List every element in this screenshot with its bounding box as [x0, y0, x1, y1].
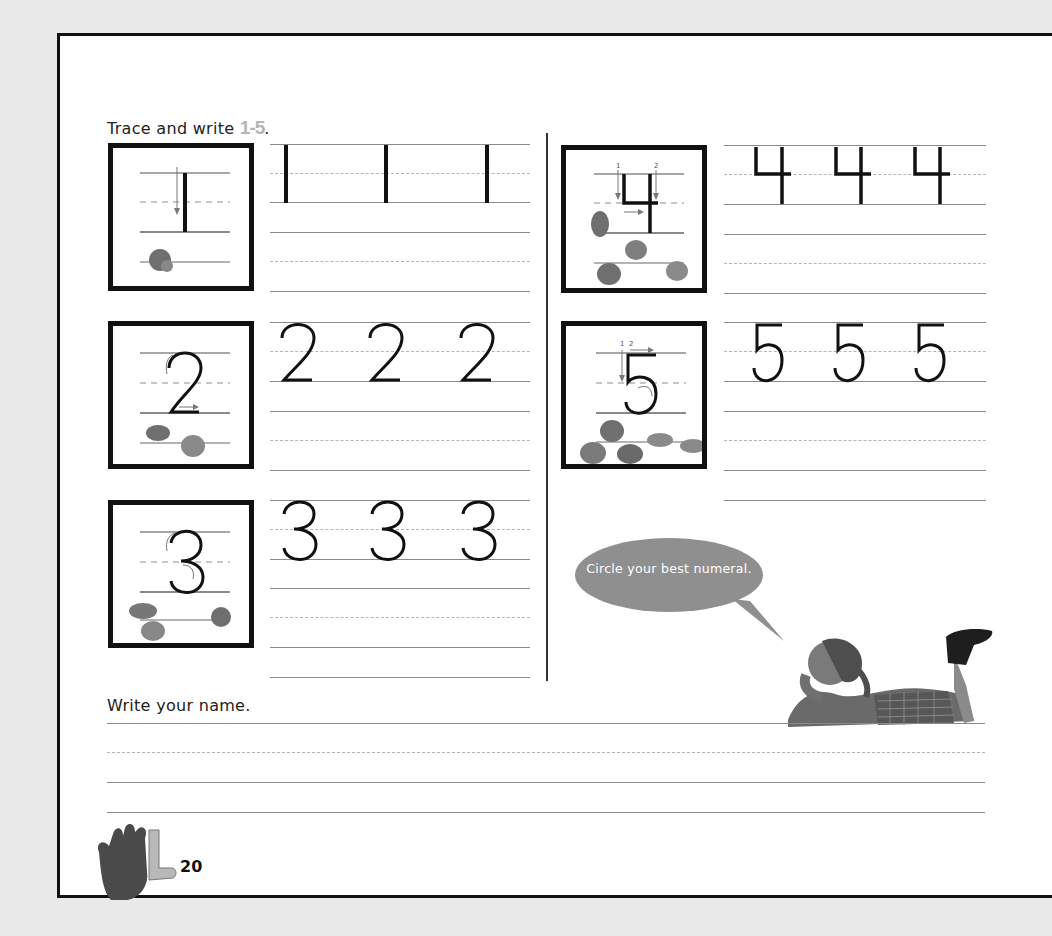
- svg-text:2: 2: [629, 340, 633, 348]
- model-numeral-4-icon: 1 2: [566, 150, 702, 288]
- practice-lines-2[interactable]: [270, 322, 530, 472]
- practice-glyphs-1: [270, 144, 530, 204]
- svg-text:2: 2: [654, 162, 658, 170]
- model-box-2: [108, 321, 254, 469]
- practice-glyphs-5: [724, 322, 986, 384]
- model-numeral-5-icon: 1 2: [566, 326, 702, 466]
- practice-lines-3[interactable]: [270, 500, 530, 680]
- svg-text:1: 1: [616, 162, 620, 170]
- model-numeral-1-icon: [113, 148, 249, 286]
- page-number: 20: [180, 857, 202, 876]
- pebble-counter-icon: [591, 211, 688, 285]
- name-writing-lines[interactable]: [107, 723, 985, 818]
- model-box-1: [108, 143, 254, 291]
- pebble-counter-icon: [146, 425, 205, 457]
- column-divider: [546, 133, 548, 681]
- model-numeral-2-icon: [113, 326, 249, 464]
- speech-bubble: Circle your best numeral.: [574, 537, 786, 637]
- practice-lines-4[interactable]: [724, 145, 986, 295]
- practice-lines-1[interactable]: [270, 144, 530, 294]
- name-prompt: Write your name.: [107, 696, 251, 715]
- practice-lines-5[interactable]: [724, 322, 986, 502]
- svg-text:1: 1: [620, 340, 624, 348]
- speech-bubble-shape-icon: [574, 537, 786, 647]
- instruction-text: Trace and write: [107, 119, 240, 138]
- hand-sign-L-icon: [93, 822, 178, 900]
- numeral-range: 1-5: [240, 117, 264, 138]
- practice-glyphs-4: [724, 145, 986, 207]
- girl-lying-illustration: [778, 625, 998, 735]
- model-box-4: 1 2: [561, 145, 707, 293]
- model-box-5: 1 2: [561, 321, 707, 469]
- practice-glyphs-2: [270, 322, 530, 384]
- model-box-3: [108, 500, 254, 648]
- pebble-counter-icon: [129, 603, 231, 641]
- practice-glyphs-3: [270, 500, 530, 562]
- model-numeral-3-icon: [113, 505, 249, 645]
- speech-bubble-text: Circle your best numeral.: [574, 561, 764, 577]
- instruction-heading: Trace and write 1-5.: [107, 117, 270, 139]
- pebble-counter-icon: [149, 249, 173, 272]
